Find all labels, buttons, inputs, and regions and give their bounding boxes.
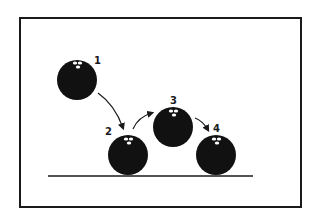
bouncing-ball-diagram (0, 0, 322, 219)
ball-2 (108, 135, 148, 175)
ball-label-2: 2 (105, 127, 112, 137)
ball-4 (196, 135, 236, 175)
ball-label-4: 4 (213, 124, 220, 134)
ball-3 (153, 107, 193, 147)
ball-label-1: 1 (94, 56, 101, 66)
ball-1 (57, 60, 97, 100)
arrow-2-to-3 (133, 113, 152, 129)
arrow-1-to-2 (98, 93, 123, 128)
arrow-3-to-4 (195, 118, 208, 130)
ball-label-3: 3 (170, 96, 177, 106)
